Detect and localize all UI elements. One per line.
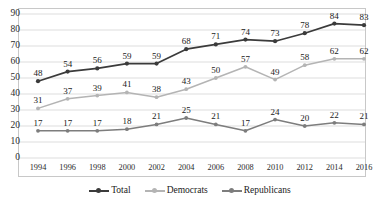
x-axis-tick-label: 2006 — [201, 164, 231, 172]
data-label: 24 — [264, 108, 286, 117]
legend-label: Republicans — [244, 186, 291, 196]
data-point-marker — [95, 94, 99, 98]
data-point-marker — [303, 63, 307, 67]
data-point-marker — [66, 97, 70, 101]
data-label: 83 — [353, 13, 375, 22]
data-label: 21 — [353, 112, 375, 121]
data-point-marker — [36, 79, 40, 83]
data-point-marker — [332, 121, 336, 125]
data-point-marker — [66, 129, 70, 133]
data-point-marker — [125, 91, 129, 95]
data-label: 56 — [86, 56, 108, 65]
data-label: 17 — [57, 119, 79, 128]
y-axis-tick-label: 60 — [0, 57, 20, 67]
y-axis-tick-label: 90 — [0, 9, 20, 19]
data-label: 62 — [323, 47, 345, 56]
data-label: 59 — [116, 52, 138, 61]
data-point-marker — [155, 123, 159, 127]
data-label: 21 — [146, 112, 168, 121]
data-label: 31 — [27, 96, 49, 105]
data-point-marker — [273, 39, 277, 43]
data-label: 41 — [116, 80, 138, 89]
data-point-marker — [362, 23, 366, 27]
data-point-marker — [214, 42, 218, 46]
x-axis-tick-label: 2010 — [260, 164, 290, 172]
legend-label: Democrats — [167, 186, 208, 196]
x-axis-tick-label: 2014 — [319, 164, 349, 172]
data-point-marker — [273, 78, 277, 82]
data-label: 57 — [234, 55, 256, 64]
data-label: 38 — [146, 85, 168, 94]
data-point-marker — [244, 65, 248, 69]
legend-swatch-icon — [89, 186, 109, 195]
data-label: 62 — [353, 47, 375, 56]
y-axis-tick-label: 0 — [0, 153, 20, 163]
data-label: 21 — [205, 112, 227, 121]
data-point-marker — [243, 38, 247, 42]
data-label: 25 — [175, 106, 197, 115]
data-point-marker — [155, 95, 159, 99]
data-point-marker — [214, 123, 218, 127]
data-point-marker — [303, 124, 307, 128]
data-label: 59 — [146, 52, 168, 61]
data-label: 20 — [294, 114, 316, 123]
data-point-marker — [273, 118, 277, 122]
data-label: 74 — [234, 28, 256, 37]
y-axis-tick-label: 20 — [0, 121, 20, 131]
legend-item-democrats[interactable]: Democrats — [145, 186, 208, 196]
data-label: 49 — [264, 68, 286, 77]
data-label: 54 — [57, 60, 79, 69]
y-axis-tick-label: 70 — [0, 41, 20, 51]
data-point-marker — [244, 129, 248, 133]
data-point-marker — [36, 129, 40, 133]
data-point-marker — [36, 107, 40, 111]
data-point-marker — [332, 22, 336, 26]
data-label: 22 — [323, 111, 345, 120]
data-label: 58 — [294, 53, 316, 62]
y-axis-tick-label: 40 — [0, 89, 20, 99]
legend-item-republicans[interactable]: Republicans — [222, 186, 291, 196]
x-axis-tick-label: 1994 — [23, 164, 53, 172]
data-label: 43 — [175, 77, 197, 86]
legend-swatch-icon — [145, 186, 165, 195]
data-label: 37 — [57, 87, 79, 96]
y-axis-tick-label: 50 — [0, 73, 20, 83]
data-label: 73 — [264, 29, 286, 38]
y-axis-tick-label: 30 — [0, 105, 20, 115]
legend-swatch-icon — [222, 186, 242, 195]
data-label: 78 — [294, 21, 316, 30]
data-label: 71 — [205, 32, 227, 41]
legend-item-total[interactable]: Total — [89, 186, 130, 196]
data-label: 50 — [205, 66, 227, 75]
data-point-marker — [303, 31, 307, 35]
data-label: 39 — [86, 84, 108, 93]
x-axis-tick-label: 2016 — [349, 164, 379, 172]
data-point-marker — [332, 57, 336, 61]
data-label: 84 — [323, 12, 345, 21]
data-point-marker — [125, 62, 129, 66]
data-point-marker — [154, 62, 158, 66]
data-label: 48 — [27, 69, 49, 78]
series-layer — [36, 22, 366, 133]
data-point-marker — [66, 70, 70, 74]
x-axis-tick-label: 2008 — [230, 164, 260, 172]
x-axis-tick-label: 2004 — [171, 164, 201, 172]
data-point-marker — [184, 87, 188, 91]
data-label: 18 — [116, 117, 138, 126]
y-axis-tick-label: 10 — [0, 137, 20, 147]
x-axis-tick-label: 2002 — [142, 164, 172, 172]
data-point-marker — [362, 123, 366, 127]
data-point-marker — [362, 57, 366, 61]
legend-label: Total — [111, 186, 130, 196]
data-label: 17 — [86, 119, 108, 128]
x-axis-tick-label: 1996 — [53, 164, 83, 172]
x-axis-tick-label: 2000 — [112, 164, 142, 172]
data-point-marker — [95, 66, 99, 70]
x-axis-tick-label: 2012 — [290, 164, 320, 172]
line-chart: 9080706050403020100 19941996199820002002… — [0, 0, 380, 213]
data-point-marker — [184, 116, 188, 120]
data-point-marker — [125, 127, 129, 131]
data-label: 17 — [234, 119, 256, 128]
y-axis-tick-label: 80 — [0, 25, 20, 35]
data-label: 17 — [27, 119, 49, 128]
